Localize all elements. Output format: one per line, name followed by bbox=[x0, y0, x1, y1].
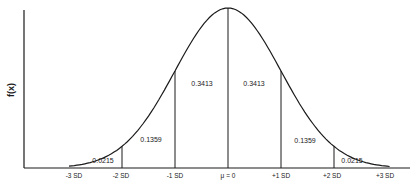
tick-minus-1sd: -1 SD bbox=[167, 172, 184, 179]
area-label-m1-mu: 0.3413 bbox=[191, 80, 212, 87]
sd-lines bbox=[122, 8, 334, 168]
area-label-m2-m1: 0.1359 bbox=[140, 136, 161, 143]
area-label-p2-p3: 0.0215 bbox=[341, 157, 362, 164]
tick-minus-3sd: -3 SD bbox=[66, 172, 83, 179]
area-label-m3-m2: 0.0215 bbox=[92, 157, 113, 164]
tick-plus-1sd: +1 SD bbox=[272, 172, 290, 179]
y-axis-label: f(x) bbox=[6, 75, 26, 105]
tick-minus-2sd: -2 SD bbox=[113, 172, 130, 179]
normal-curve bbox=[69, 8, 390, 167]
area-label-p1-p2: 0.1359 bbox=[294, 137, 315, 144]
tick-mean: μ = 0 bbox=[221, 172, 236, 179]
tick-plus-2sd: +2 SD bbox=[323, 172, 341, 179]
area-label-mu-p1: 0.3413 bbox=[243, 80, 264, 87]
tick-plus-3sd: +3 SD bbox=[376, 172, 394, 179]
